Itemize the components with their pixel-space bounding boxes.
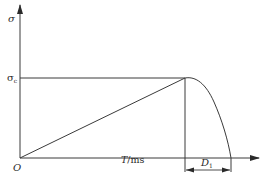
duration-label: D1 [200, 157, 213, 169]
stress-time-diagram: σ σc O T/ms D1 [0, 0, 265, 184]
y-axis-label: σ [8, 13, 16, 24]
x-axis-label: T/ms [121, 154, 145, 165]
linear-rise-curve [20, 78, 185, 158]
sigma-c-label: σc [7, 72, 18, 84]
decay-curve [185, 78, 231, 158]
origin-label: O [13, 162, 21, 173]
